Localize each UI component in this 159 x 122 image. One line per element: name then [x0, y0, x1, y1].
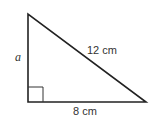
- label-side-a: a: [15, 50, 21, 64]
- right-angle-marker: [28, 87, 43, 102]
- label-base: 8 cm: [73, 105, 97, 117]
- right-triangle-diagram: a 12 cm 8 cm: [0, 0, 159, 122]
- label-hypotenuse: 12 cm: [87, 44, 117, 56]
- triangle-outline: [28, 14, 146, 102]
